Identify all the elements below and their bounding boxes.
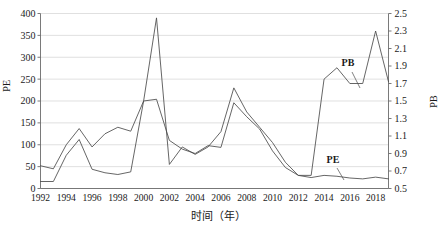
y-right-tick-label: 2.1 — [395, 43, 408, 54]
x-tick-label: 2012 — [289, 192, 308, 203]
x-tick-label: 2014 — [314, 192, 333, 203]
x-tick-label: 1996 — [82, 192, 101, 203]
series-annotation-pe: PE — [327, 154, 340, 165]
x-tick-label: 1994 — [57, 192, 76, 203]
x-tick-labels: 1992199419961998200020022004200620082010… — [31, 192, 386, 203]
y-right-tick-label: 1.1 — [395, 130, 408, 141]
y-right-tick-labels: 0.50.70.91.11.31.51.71.92.12.32.5 — [395, 8, 408, 194]
x-axis-title: 时间（年） — [0, 207, 436, 223]
annotation-leader-line — [337, 168, 344, 180]
y-right-tick-label: 1.3 — [395, 113, 408, 124]
x-tick-label: 2018 — [366, 192, 385, 203]
y-left-tick-label: 200 — [21, 95, 36, 106]
x-tick-label: 2016 — [340, 192, 359, 203]
x-tick-label: 2006 — [211, 192, 230, 203]
x-tick-label: 2002 — [160, 192, 179, 203]
y-left-tick-label: 400 — [21, 8, 36, 19]
x-tick-label: 1992 — [31, 192, 50, 203]
y-right-tick-label: 1.7 — [395, 78, 408, 89]
series-annotation-pb: PB — [342, 57, 355, 68]
x-tick-label: 1998 — [108, 192, 127, 203]
annotation-leader-line — [352, 72, 360, 88]
x-tick-label: 2008 — [237, 192, 256, 203]
y-right-tick-label: 1.9 — [395, 60, 408, 71]
y-right-tick-label: 0.9 — [395, 148, 408, 159]
x-tick-label: 2004 — [186, 192, 205, 203]
y-right-tick-label: 0.5 — [395, 183, 408, 194]
right-axis-ticks — [389, 14, 392, 189]
y-left-tick-label: 350 — [21, 30, 36, 41]
y-left-tick-label: 50 — [26, 161, 36, 172]
x-tick-label: 2010 — [263, 192, 282, 203]
y-right-tick-label: 2.3 — [395, 25, 408, 36]
x-tick-label: 2000 — [134, 192, 153, 203]
y-left-tick-label: 300 — [21, 52, 36, 63]
y-axis-right-title: PB — [428, 95, 439, 108]
y-left-tick-labels: 050100150200250300350400 — [21, 8, 36, 194]
y-axis-left-title: PE — [1, 80, 12, 92]
y-left-tick-label: 150 — [21, 117, 36, 128]
y-right-tick-label: 1.5 — [395, 95, 408, 106]
y-left-tick-label: 100 — [21, 139, 36, 150]
y-right-tick-label: 0.7 — [395, 165, 408, 176]
y-right-tick-label: 2.5 — [395, 8, 408, 19]
y-left-tick-label: 250 — [21, 74, 36, 85]
